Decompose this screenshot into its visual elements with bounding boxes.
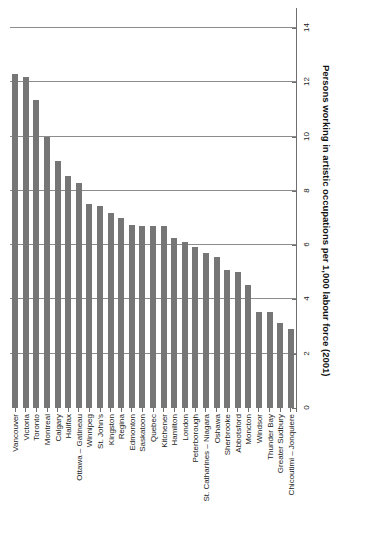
- x-tick-mark: [110, 408, 111, 412]
- bar[interactable]: [171, 238, 177, 408]
- x-tick-mark: [68, 408, 69, 412]
- x-tick: [127, 408, 138, 412]
- x-axis-label-slot: Vancouver: [10, 414, 21, 554]
- bar-slot: [52, 28, 63, 408]
- bar-slot: [148, 28, 159, 408]
- x-tick-mark: [78, 408, 79, 412]
- x-tick: [222, 408, 233, 412]
- x-tick: [42, 408, 53, 412]
- x-tick: [190, 408, 201, 412]
- x-axis-label: Vancouver: [11, 414, 20, 452]
- bar-slot: [10, 28, 21, 408]
- x-tick-mark: [15, 408, 16, 412]
- bar-slot: [254, 28, 265, 408]
- bar[interactable]: [182, 242, 188, 408]
- bar-slot: [74, 28, 85, 408]
- x-tick: [31, 408, 42, 412]
- x-axis-label-slot: Hamilton: [169, 414, 180, 554]
- y-tick-label: 14: [302, 21, 311, 35]
- bar[interactable]: [44, 137, 50, 408]
- x-axis-label-slot: Ottawa – Gatineau: [74, 414, 85, 554]
- bar[interactable]: [288, 329, 294, 408]
- x-axis-label-slot: Montreal: [42, 414, 53, 554]
- x-tick: [285, 408, 296, 412]
- x-tick-mark: [131, 408, 132, 412]
- y-tick-label: 12: [302, 75, 311, 89]
- x-axis-label-slot: St. Catharines – Niagara: [201, 414, 212, 554]
- x-axis-label-slot: Victoria: [21, 414, 32, 554]
- x-tick-mark: [248, 408, 249, 412]
- bar[interactable]: [150, 226, 156, 408]
- bar[interactable]: [76, 183, 82, 408]
- y-tick-mark: [292, 137, 296, 138]
- y-tick-mark: [292, 28, 296, 29]
- bar[interactable]: [12, 74, 18, 408]
- x-tick-mark: [290, 408, 291, 412]
- bar[interactable]: [245, 285, 251, 409]
- bar-slot: [264, 28, 275, 408]
- x-tick: [264, 408, 275, 412]
- x-axis-label: St. John's: [96, 414, 105, 449]
- bar[interactable]: [235, 272, 241, 408]
- bar[interactable]: [129, 225, 135, 408]
- x-axis-label: Halifax: [64, 414, 73, 438]
- y-tick-mark: [292, 354, 296, 355]
- x-tick-mark: [89, 408, 90, 412]
- bar-slot: [21, 28, 32, 408]
- bar-slot: [285, 28, 296, 408]
- x-axis-label-slot: Peterborough: [190, 414, 201, 554]
- x-axis-label: Montreal: [43, 414, 52, 445]
- bar[interactable]: [224, 270, 230, 408]
- bar-slot: [105, 28, 116, 408]
- bar[interactable]: [86, 204, 92, 408]
- bar[interactable]: [97, 206, 103, 408]
- x-tick-mark: [269, 408, 270, 412]
- bar[interactable]: [55, 161, 61, 408]
- x-axis-label: St. Catharines – Niagara: [201, 414, 210, 502]
- bar[interactable]: [161, 226, 167, 408]
- bar[interactable]: [214, 257, 220, 408]
- bar[interactable]: [256, 312, 262, 408]
- x-tick-mark: [25, 408, 26, 412]
- bar[interactable]: [33, 100, 39, 408]
- bar-slot: [275, 28, 286, 408]
- y-axis-line: [296, 8, 297, 412]
- x-tick: [148, 408, 159, 412]
- x-axis-label-slot: Toronto: [31, 414, 42, 554]
- x-axis-label-slot: Thunder Bay: [264, 414, 275, 554]
- y-tick-mark: [292, 82, 296, 83]
- bar[interactable]: [203, 253, 209, 408]
- x-tick: [10, 408, 21, 412]
- x-tick: [254, 408, 265, 412]
- bar-slot: [201, 28, 212, 408]
- bar-slot: [95, 28, 106, 408]
- x-axis-label: Oshawa: [212, 414, 221, 443]
- x-axis-label: Peterborough: [191, 414, 200, 462]
- y-axis-title: Persons working in artistic occupations …: [318, 65, 332, 485]
- x-axis-label-slot: Windsor: [254, 414, 265, 554]
- bar-slot: [232, 28, 243, 408]
- bar-slot: [243, 28, 254, 408]
- x-tick: [21, 408, 32, 412]
- x-axis-label: Regina: [117, 414, 126, 439]
- bar[interactable]: [118, 218, 124, 408]
- x-axis-label: Toronto: [32, 414, 41, 441]
- x-axis-label: Hamilton: [170, 414, 179, 446]
- x-tick-mark: [205, 408, 206, 412]
- bar[interactable]: [267, 312, 273, 408]
- bar[interactable]: [192, 247, 198, 409]
- x-axis-label: Quebec: [149, 414, 158, 442]
- x-tick-mark: [100, 408, 101, 412]
- x-tick: [74, 408, 85, 412]
- bar[interactable]: [23, 77, 29, 408]
- bar[interactable]: [139, 226, 145, 408]
- x-axis-label-slot: Sherbrooke: [222, 414, 233, 554]
- bar-slot: [222, 28, 233, 408]
- x-tick: [201, 408, 212, 412]
- bar[interactable]: [65, 176, 71, 408]
- x-axis-label: Kingston: [106, 414, 115, 445]
- bar[interactable]: [277, 323, 283, 409]
- bar-slot: [137, 28, 148, 408]
- x-axis-label: Greater Sudbury: [276, 414, 285, 473]
- bar[interactable]: [108, 213, 114, 408]
